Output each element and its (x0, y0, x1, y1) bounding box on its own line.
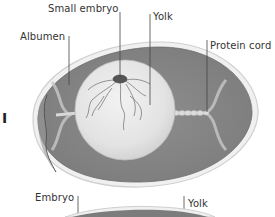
label-protein-cord: Protein cord (210, 40, 271, 51)
label-albumen: Albumen (20, 31, 65, 42)
protein-cord-left (56, 113, 78, 115)
stage-number: I (2, 110, 7, 126)
yolk (75, 60, 175, 160)
label-yolk-top: Yolk (153, 11, 173, 22)
label-small-embryo: Small embryo (48, 3, 119, 14)
label-embryo: Embryo (35, 192, 74, 203)
label-yolk-bottom: Yolk (188, 198, 208, 209)
